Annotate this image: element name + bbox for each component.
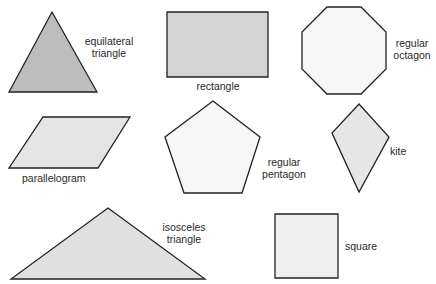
rectangle-label: rectangle [188,80,248,92]
square-label: square [345,240,377,252]
octagon-label-line1: regular [390,37,434,49]
equilateral-triangle-label: equilateral triangle [80,35,138,59]
isosceles-label-line1: isosceles [158,221,210,233]
isosceles-label-line2: triangle [158,233,210,245]
regular-octagon-shape [302,7,386,94]
parallelogram-shape [9,117,130,168]
kite-label: kite [390,145,406,157]
kite-shape [332,104,389,192]
parallelogram-label: parallelogram [22,172,86,184]
regular-pentagon-label: regular pentagon [260,156,308,180]
equilateral-label-line2: triangle [80,47,138,59]
pentagon-label-line1: regular [260,156,308,168]
pentagon-label-line2: pentagon [260,168,308,180]
square-shape [275,214,338,278]
regular-octagon-label: regular octagon [390,37,434,61]
rectangle-shape [167,12,268,77]
equilateral-label-line1: equilateral [80,35,138,47]
isosceles-triangle-label: isosceles triangle [158,221,210,245]
octagon-label-line2: octagon [390,49,434,61]
regular-pentagon-shape [165,101,260,193]
